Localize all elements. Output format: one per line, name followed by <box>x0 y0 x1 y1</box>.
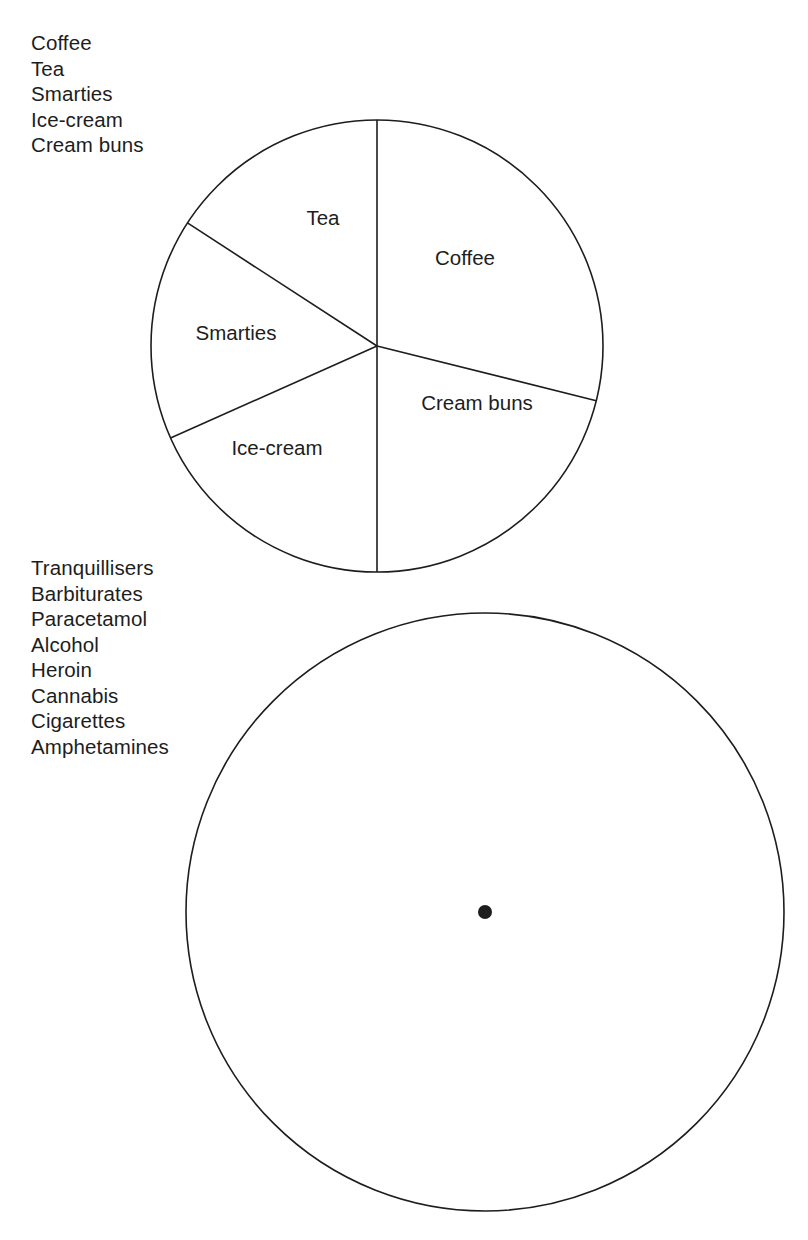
worksheet-page: Coffee Tea Smarties Ice-cream Cream buns… <box>0 0 808 1240</box>
pie-slice-label: Coffee <box>435 246 495 269</box>
pie-charts-canvas: CoffeeCream bunsIce-creamSmartiesTea <box>0 0 808 1240</box>
pie-slice-label: Cream buns <box>421 391 533 414</box>
pie-slice-boundaries <box>171 120 597 572</box>
pie-slice-boundary <box>171 346 377 438</box>
drinks-and-treats-pie: CoffeeCream bunsIce-creamSmartiesTea <box>151 120 603 572</box>
pie-slice-labels: CoffeeCream bunsIce-creamSmartiesTea <box>196 206 533 459</box>
pie-slice-label: Smarties <box>196 321 277 344</box>
drugs-pie-blank <box>186 613 784 1211</box>
pie-slice-label: Ice-cream <box>231 436 322 459</box>
pie-slice-label: Tea <box>306 206 340 229</box>
pie-centre-dot <box>478 905 492 919</box>
